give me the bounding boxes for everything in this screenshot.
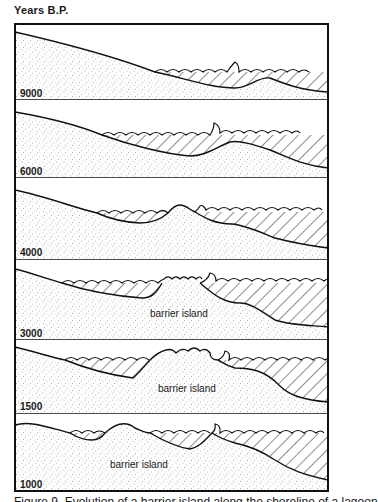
year-label-9000: 9000 <box>20 88 43 99</box>
year-label-1500: 1500 <box>20 401 43 412</box>
panel-6000 <box>15 100 328 178</box>
year-label-1000: 1000 <box>20 479 43 490</box>
barrier-island-label: barrier island <box>158 383 216 394</box>
year-label-6000: 6000 <box>20 166 43 177</box>
panel-4000 <box>15 178 328 260</box>
panel-1500: barrier island <box>15 340 333 414</box>
panel-9000 <box>15 24 328 100</box>
barrier-island-label: barrier island <box>110 459 168 470</box>
panel-3000: barrier island <box>15 260 330 340</box>
barrier-island-label: barrier island <box>150 308 208 319</box>
panel-1000: barrier island <box>15 414 328 491</box>
figure-caption: Figure 9. Evolution of a barrier island … <box>14 494 378 502</box>
year-label-4000: 4000 <box>20 247 43 258</box>
year-label-3000: 3000 <box>20 328 43 339</box>
